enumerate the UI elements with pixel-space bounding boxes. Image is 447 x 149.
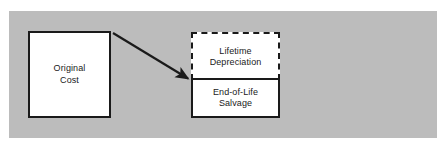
node-original-cost-label: Original Cost	[54, 63, 86, 86]
node-lifetime-depreciation-label: Lifetime Depreciation	[210, 46, 262, 69]
node-end-of-life-salvage-label: End-of-Life Salvage	[213, 87, 258, 110]
diagram-root: Original Cost Lifetime Depreciation End-…	[0, 0, 447, 149]
node-original-cost[interactable]: Original Cost	[28, 31, 111, 118]
node-lifetime-depreciation[interactable]: Lifetime Depreciation	[191, 32, 280, 80]
node-value-split-group: Lifetime Depreciation End-of-Life Salvag…	[191, 32, 280, 118]
node-end-of-life-salvage[interactable]: End-of-Life Salvage	[191, 78, 280, 118]
